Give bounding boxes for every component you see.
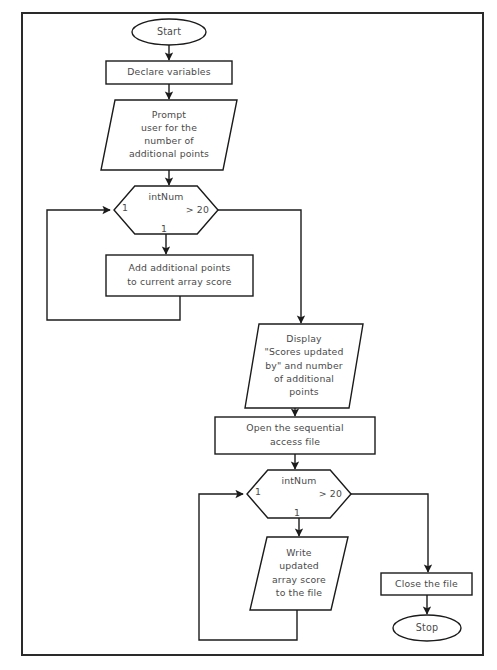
node-stop: Stop — [393, 615, 461, 641]
shape-label-line: Close the file — [395, 578, 458, 589]
decision-left-label: 1 — [255, 486, 261, 497]
shape-label-line: "Scores updated — [264, 346, 343, 357]
node-start: Start — [132, 19, 206, 45]
decision-variable: intNum — [149, 191, 184, 202]
shape-label-line: updated — [279, 560, 319, 571]
page-border — [22, 13, 483, 655]
node-prompt: Promptuser for thenumber ofadditional po… — [101, 100, 237, 170]
node-add_points: Add additional pointsto current array sc… — [106, 255, 253, 296]
node-open_file: Open the sequentialaccess file — [215, 417, 375, 454]
decision-right-label: > 20 — [186, 204, 209, 215]
shape-label-line: user for the — [141, 122, 197, 133]
shape-label-line: to current array score — [127, 276, 232, 287]
shape-label-line: array score — [272, 574, 326, 585]
shape-label-line: points — [289, 386, 318, 397]
node-write: Writeupdatedarray scoreto the file — [250, 537, 348, 610]
shape-label-line: Open the sequential — [246, 422, 343, 433]
shape-label-line: Start — [157, 26, 181, 37]
shape-label-line: Prompt — [152, 109, 186, 120]
shape-label-line: by" and number — [265, 360, 342, 371]
decision2-false-to-close — [351, 494, 428, 572]
shape-label-line: to the file — [276, 587, 322, 598]
node-close_file: Close the file — [381, 573, 472, 595]
decision-bottom-label: 1 — [294, 507, 300, 518]
decision-right-label: > 20 — [319, 488, 342, 499]
connector-lines — [47, 45, 428, 640]
shape-label-line: Declare variables — [127, 66, 210, 77]
decision-left-label: 1 — [122, 202, 128, 213]
shape-label-line: number of — [144, 135, 194, 146]
shape-label-line: access file — [270, 436, 320, 447]
flowchart-canvas: StartDeclare variablesPromptuser for the… — [0, 0, 497, 670]
shape-label-line: Add additional points — [129, 262, 231, 273]
decision-bottom-label: 1 — [161, 223, 167, 234]
node-decision2: intNum1> 201 — [247, 470, 351, 518]
node-decision1: intNum1> 201 — [114, 186, 218, 234]
shape-label-line: of additional — [274, 373, 334, 384]
node-display: Display"Scores updatedby" and numberof a… — [245, 324, 363, 408]
shape-label-line: Write — [286, 547, 311, 558]
node-declare: Declare variables — [106, 61, 232, 84]
flowchart-page: StartDeclare variablesPromptuser for the… — [0, 0, 497, 670]
decision-variable: intNum — [282, 475, 317, 486]
shape-label-line: Stop — [416, 622, 438, 633]
shape-label-line: Display — [286, 333, 322, 344]
flowchart-shapes: StartDeclare variablesPromptuser for the… — [101, 19, 472, 641]
shape-label-line: additional points — [129, 148, 209, 159]
